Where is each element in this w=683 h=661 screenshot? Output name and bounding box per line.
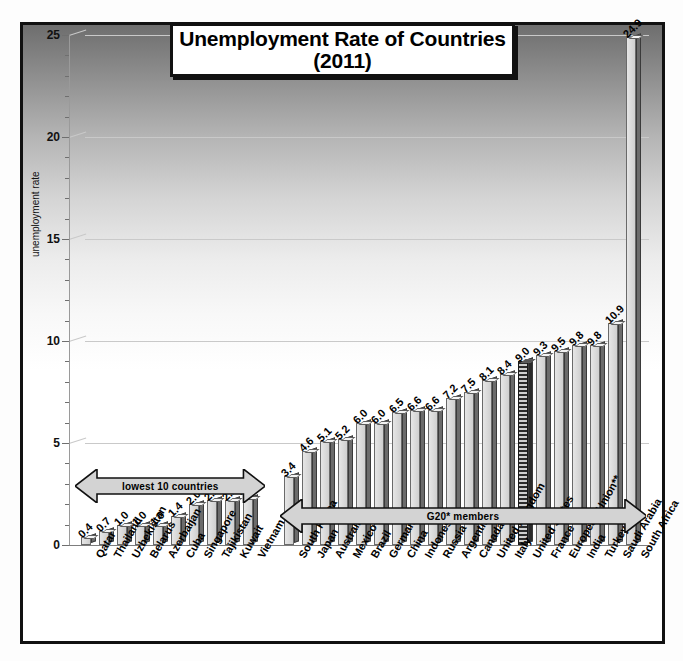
y-axis-line bbox=[69, 35, 70, 545]
bar-south-africa[interactable] bbox=[626, 37, 639, 545]
y-tick-label-15: 15 bbox=[47, 232, 60, 246]
y-tick-0 bbox=[62, 545, 69, 546]
chart-subtitle: (2011) bbox=[313, 50, 371, 72]
chart-title-box: Unemployment Rate of Countries (2011) bbox=[170, 23, 515, 77]
gridline-15 bbox=[69, 239, 649, 240]
y-tick-label-5: 5 bbox=[53, 436, 60, 450]
annotation-label: lowest 10 countries bbox=[75, 469, 265, 503]
y-tick-25 bbox=[62, 35, 69, 36]
plot-area: 0510152025 0.40.71.01.01.01.42.02.22.22.… bbox=[69, 35, 649, 545]
annotation-label: G20* members bbox=[280, 499, 647, 533]
y-tick-20 bbox=[62, 137, 69, 138]
gridline-20 bbox=[69, 137, 649, 138]
annotation-g20-members: G20* members bbox=[280, 499, 647, 533]
chart-screenshot: Unemployment Rate of Countries (2011) un… bbox=[0, 0, 683, 661]
y-tick-10 bbox=[62, 341, 69, 342]
y-axis-title: unemployment rate bbox=[30, 171, 41, 257]
y-tick-label-0: 0 bbox=[53, 538, 60, 552]
page-title: Unemployment Rate of Countries bbox=[179, 28, 506, 50]
annotation-lowest-10-countries: lowest 10 countries bbox=[75, 469, 265, 503]
y-tick-5 bbox=[62, 443, 69, 444]
y-tick-label-10: 10 bbox=[47, 334, 60, 348]
y-tick-15 bbox=[62, 239, 69, 240]
y-tick-label-20: 20 bbox=[47, 130, 60, 144]
y-tick-label-25: 25 bbox=[47, 28, 60, 42]
chart-frame: Unemployment Rate of Countries (2011) un… bbox=[20, 22, 665, 644]
